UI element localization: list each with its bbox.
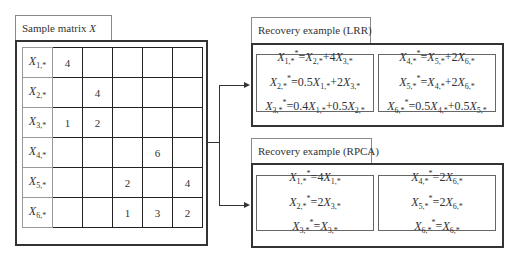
matrix-cell bbox=[143, 78, 173, 108]
matrix-cell: 2 bbox=[113, 168, 143, 198]
lrr-right-equations: X4,**=X5,*+2X6,*X5,**=X4,*+2X6,*X6,**=0.… bbox=[378, 54, 496, 112]
rpca-tab: Recovery example (RPCA) bbox=[251, 138, 372, 164]
sample-matrix-var: X bbox=[89, 22, 96, 34]
arrow-right-icon bbox=[244, 202, 250, 208]
matrix-cell bbox=[113, 138, 143, 168]
equation: X4,**=2X6,* bbox=[411, 166, 462, 190]
lrr-panel: X1,**=X2,*+4X3,*X2,**=0.5X1,*+2X3,*X3,**… bbox=[251, 43, 504, 127]
matrix-cell bbox=[173, 138, 203, 168]
equation: X3,**=X3,* bbox=[292, 215, 337, 239]
sample-matrix-panel: X1,*4X2,*4X3,*12X4,*6X5,*24X6,*132 bbox=[15, 40, 208, 246]
matrix-cell bbox=[53, 168, 83, 198]
matrix-cell: 1 bbox=[113, 198, 143, 228]
matrix-row: X6,*132 bbox=[23, 198, 203, 228]
matrix-cell bbox=[173, 48, 203, 78]
equation: X2,**=2X3,* bbox=[289, 191, 340, 215]
matrix-cell: 4 bbox=[53, 48, 83, 78]
connector-vertical bbox=[219, 85, 220, 206]
matrix-row: X3,*12 bbox=[23, 108, 203, 138]
matrix-cell bbox=[53, 138, 83, 168]
row-label: X2,* bbox=[23, 78, 53, 108]
matrix-cell bbox=[113, 48, 143, 78]
matrix-row: X4,*6 bbox=[23, 138, 203, 168]
equation: X1,**=4X1,* bbox=[289, 166, 340, 190]
matrix-cell bbox=[143, 108, 173, 138]
matrix-cell bbox=[113, 78, 143, 108]
matrix-cell bbox=[173, 108, 203, 138]
row-label: X6,* bbox=[23, 198, 53, 228]
row-label: X1,* bbox=[23, 48, 53, 78]
matrix-cell bbox=[53, 78, 83, 108]
lrr-tab: Recovery example (LRR) bbox=[251, 17, 371, 44]
sample-matrix-title: Sample matrix bbox=[22, 22, 86, 34]
rpca-right-equations: X4,**=2X6,*X5,**=2X6,*X6,**=X6,* bbox=[378, 175, 496, 231]
matrix-cell: 3 bbox=[143, 198, 173, 228]
matrix-cell: 4 bbox=[173, 168, 203, 198]
rpca-title: Recovery example (RPCA) bbox=[258, 145, 379, 157]
matrix-cell bbox=[83, 48, 113, 78]
equation: X6,**=0.5X4,*+0.5X5,* bbox=[387, 95, 487, 119]
equation: X2,**=0.5X1,*+2X3,* bbox=[270, 71, 361, 95]
row-label: X5,* bbox=[23, 168, 53, 198]
equation: X3,**=0.4X1,*+0.5X2,* bbox=[265, 95, 365, 119]
matrix-cell bbox=[83, 138, 113, 168]
matrix-cell: 2 bbox=[83, 108, 113, 138]
matrix-row: X2,*4 bbox=[23, 78, 203, 108]
equation: X5,**=X4,*+2X6,* bbox=[399, 71, 475, 95]
lrr-title: Recovery example (LRR) bbox=[258, 24, 372, 36]
equation: X6,**=X6,* bbox=[414, 215, 459, 239]
rpca-left-equations: X1,**=4X1,*X2,**=2X3,*X3,**=X3,* bbox=[256, 175, 374, 231]
matrix-cell bbox=[143, 168, 173, 198]
matrix-cell: 1 bbox=[53, 108, 83, 138]
arrow-right-icon bbox=[244, 82, 250, 88]
matrix-row: X5,*24 bbox=[23, 168, 203, 198]
row-label: X3,* bbox=[23, 108, 53, 138]
matrix-cell bbox=[173, 78, 203, 108]
sample-matrix-grid: X1,*4X2,*4X3,*12X4,*6X5,*24X6,*132 bbox=[22, 47, 203, 228]
equation: X1,**=X2,*+4X3,* bbox=[277, 46, 353, 70]
matrix-row: X1,*4 bbox=[23, 48, 203, 78]
matrix-cell: 2 bbox=[173, 198, 203, 228]
connector-to-lrr bbox=[219, 85, 245, 86]
matrix-cell: 6 bbox=[143, 138, 173, 168]
matrix-cell bbox=[113, 108, 143, 138]
lrr-left-equations: X1,**=X2,*+4X3,*X2,**=0.5X1,*+2X3,*X3,**… bbox=[256, 54, 374, 112]
rpca-panel: X1,**=4X1,*X2,**=2X3,*X3,**=X3,* X4,**=2… bbox=[251, 163, 504, 248]
sample-matrix-tab: Sample matrix X bbox=[15, 15, 112, 41]
matrix-cell bbox=[83, 168, 113, 198]
connector-to-rpca bbox=[219, 205, 245, 206]
matrix-cell: 4 bbox=[83, 78, 113, 108]
matrix-cell bbox=[83, 198, 113, 228]
equation: X4,**=X5,*+2X6,* bbox=[399, 46, 475, 70]
equation: X5,**=2X6,* bbox=[411, 191, 462, 215]
matrix-cell bbox=[143, 48, 173, 78]
row-label: X4,* bbox=[23, 138, 53, 168]
matrix-cell bbox=[53, 198, 83, 228]
